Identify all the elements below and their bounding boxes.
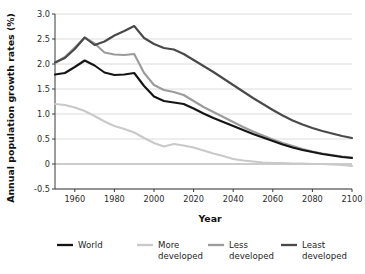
y-tick-label: -0.5 [34, 184, 50, 194]
series-line-world [55, 61, 352, 159]
x-tick-label: 2040 [223, 194, 244, 204]
y-tick-label: 3.0 [37, 9, 50, 19]
y-tick-label: 2.0 [37, 59, 50, 69]
x-tick-labels: 19601980200020202040206020802100 [64, 189, 362, 204]
chart-canvas: -0.500.51.01.52.02.53.0 1960198020002020… [0, 0, 365, 274]
population-growth-chart-figure: -0.500.51.01.52.02.53.0 1960198020002020… [0, 0, 365, 274]
legend-sublabel-more: developed [158, 251, 203, 261]
x-tick-label: 2060 [262, 194, 283, 204]
legend-sublabel-least: developed [302, 251, 347, 261]
chart-legend: WorldMoredevelopedLessdevelopedLeastdeve… [57, 240, 347, 261]
x-tick-label: 1960 [64, 194, 85, 204]
y-tick-label: 1.0 [37, 109, 50, 119]
data-series-group [55, 26, 352, 166]
y-tick-labels: -0.500.51.01.52.02.53.0 [34, 9, 55, 194]
legend-label-world: World [78, 240, 103, 250]
y-tick-label: 0.5 [37, 134, 50, 144]
x-axis-title: Year [197, 213, 222, 224]
y-axis-title: Annual population growth rates (%) [5, 13, 16, 203]
legend-label-less: Less [229, 240, 248, 250]
y-tick-label: 0 [45, 159, 50, 169]
legend-label-least: Least [302, 240, 326, 250]
y-tick-label: 1.5 [37, 84, 50, 94]
y-tick-label: 2.5 [37, 34, 50, 44]
x-tick-label: 2000 [144, 194, 165, 204]
x-tick-label: 1980 [104, 194, 125, 204]
x-tick-label: 2080 [302, 194, 323, 204]
series-line-least-developed [55, 26, 352, 138]
series-line-less-developed [55, 38, 352, 158]
legend-label-more: More [158, 240, 179, 250]
x-tick-label: 2020 [183, 194, 204, 204]
legend-sublabel-less: developed [229, 251, 274, 261]
x-tick-label: 2100 [342, 194, 363, 204]
